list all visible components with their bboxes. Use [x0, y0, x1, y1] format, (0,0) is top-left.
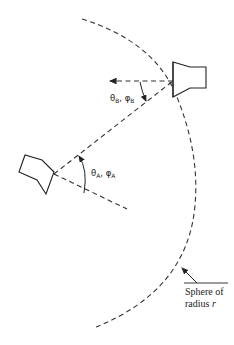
label-theta-phi-b: θB, φB [110, 93, 134, 104]
antenna-a-icon [19, 155, 54, 194]
boresight-a [54, 174, 127, 209]
angle-arc-b [140, 82, 146, 101]
sphere-leader-line [182, 268, 197, 283]
sphere-label-line2: radius r [185, 298, 216, 309]
label-theta-phi-a: θA, φA [91, 168, 116, 179]
sphere-label-line1: Sphere of [185, 286, 224, 297]
antenna-b-icon [173, 62, 206, 97]
angle-arc-a [79, 156, 85, 193]
antenna-diagram: θB, φB θA, φA Sphere of radius r [0, 0, 234, 345]
